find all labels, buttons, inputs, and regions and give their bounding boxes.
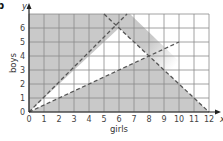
y-tick-label: 4: [20, 52, 25, 61]
x-tick-label: 9: [161, 115, 166, 124]
x-tick-label: 0: [26, 115, 31, 124]
x-tick-label: 8: [146, 115, 151, 124]
x-tick-label: 3: [71, 115, 76, 124]
y-tick-label: 0: [20, 108, 25, 117]
x-tick-label: 10: [174, 115, 184, 124]
y-tick-label: 3: [20, 66, 25, 75]
x-tick-label: 12: [204, 115, 214, 124]
y-tick-label: 2: [20, 80, 25, 89]
y-axis-label: boys: [8, 52, 18, 73]
x-tick-label: 7: [131, 115, 136, 124]
x-tick-labels: 0123456789101112: [26, 115, 214, 124]
x-tick-label: 5: [101, 115, 106, 124]
x-tick-label: 6: [116, 115, 121, 124]
y-tick-label: 6: [20, 24, 25, 33]
x-axis-symbol: x: [219, 114, 223, 124]
y-tick-label: 5: [20, 38, 25, 47]
y-axis-symbol: y: [21, 1, 28, 11]
x-tick-label: 4: [86, 115, 91, 124]
x-axis-label: girls: [110, 124, 129, 134]
y-tick-label: 1: [20, 94, 25, 103]
chart: b y x 0123456789101112 0123456 girls boy…: [0, 0, 223, 141]
part-label: b: [0, 0, 4, 11]
y-tick-labels: 0123456: [20, 24, 25, 117]
x-tick-label: 2: [56, 115, 61, 124]
x-tick-label: 11: [189, 115, 199, 124]
y-axis-arrow-icon: [27, 3, 32, 9]
x-tick-label: 1: [41, 115, 46, 124]
